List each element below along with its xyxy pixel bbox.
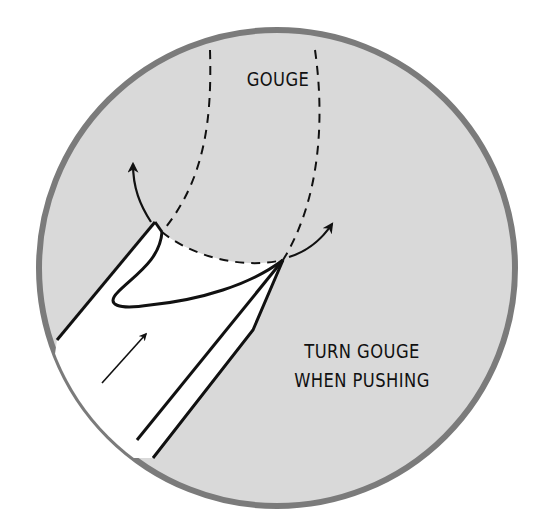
instruction-label: TURN GOUGE WHEN PUSHING xyxy=(276,337,448,395)
gouge-label: GOUGE xyxy=(235,68,321,90)
diagram-canvas: GOUGE TURN GOUGE WHEN PUSHING xyxy=(0,0,545,528)
instruction-line-2: WHEN PUSHING xyxy=(276,366,448,395)
instruction-line-1: TURN GOUGE xyxy=(276,337,448,366)
